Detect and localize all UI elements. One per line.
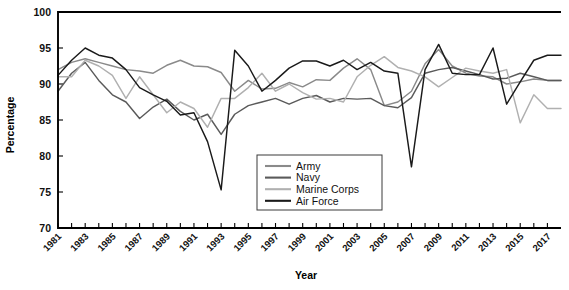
x-tick-label: 2011 <box>449 230 472 253</box>
x-tick-label: 2003 <box>340 231 363 254</box>
x-tick-label: 2015 <box>503 230 526 253</box>
x-tick-label: 2013 <box>476 231 499 254</box>
legend-label-army: Army <box>296 160 321 172</box>
x-tick-label: 1999 <box>285 231 308 254</box>
x-tick-label: 1995 <box>231 230 254 253</box>
x-tick-label: 2007 <box>394 231 417 254</box>
chart-figure: 707580859095100 198119831985198719891991… <box>0 0 569 290</box>
x-tick-label: 2001 <box>313 230 336 253</box>
x-tick-label: 2017 <box>530 231 553 254</box>
y-tick-label: 80 <box>39 150 51 162</box>
series-line-navy <box>58 62 561 134</box>
x-tick-label: 1985 <box>95 230 118 253</box>
x-tick-label: 1989 <box>149 231 172 254</box>
x-tick-label: 1997 <box>258 231 281 254</box>
x-axis-tick-labels: 1981198319851987198919911993199519971999… <box>41 230 553 253</box>
x-tick-label: 1987 <box>122 231 145 254</box>
series-line-marine-corps <box>58 57 561 128</box>
chart-legend: ArmyNavyMarine CorpsAir Force <box>257 155 382 210</box>
y-tick-label: 100 <box>33 6 51 18</box>
y-axis-tick-labels: 707580859095100 <box>33 6 51 234</box>
x-tick-label: 1991 <box>177 230 200 253</box>
x-tick-label: 1993 <box>204 231 227 254</box>
legend-label-air-force: Air Force <box>296 195 339 207</box>
y-tick-label: 95 <box>39 42 51 54</box>
x-tick-label: 2009 <box>421 231 444 254</box>
y-axis-title: Percentage <box>4 97 16 154</box>
x-tick-label: 2005 <box>367 230 390 253</box>
y-tick-label: 90 <box>39 78 51 90</box>
legend-label-navy: Navy <box>296 171 321 183</box>
y-tick-label: 75 <box>39 186 51 198</box>
x-tick-label: 1983 <box>68 231 91 254</box>
x-axis-title: Year <box>295 269 317 281</box>
y-tick-label: 70 <box>39 222 51 234</box>
legend-label-marine-corps: Marine Corps <box>296 183 359 195</box>
y-tick-label: 85 <box>39 114 51 126</box>
line-chart: 707580859095100 198119831985198719891991… <box>0 0 569 290</box>
